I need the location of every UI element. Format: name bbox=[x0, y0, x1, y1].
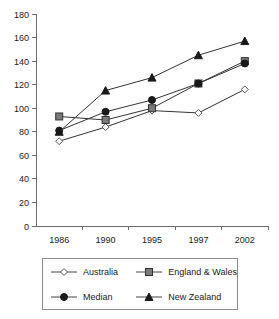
y-tick-label: 60 bbox=[19, 151, 29, 161]
data-point-marker bbox=[241, 86, 248, 93]
y-tick-label: 160 bbox=[14, 33, 29, 43]
legend-item-australia[interactable]: Australia bbox=[43, 266, 128, 278]
x-tick-label: 2002 bbox=[235, 235, 255, 245]
legend-marker-filled-triangle-icon bbox=[134, 291, 164, 303]
legend-item-label: Australia bbox=[83, 267, 118, 277]
x-tick-label: 1995 bbox=[142, 235, 162, 245]
chart-legend: AustraliaEngland & WalesMedianNew Zealan… bbox=[42, 258, 238, 310]
legend-item-england-wales[interactable]: England & Wales bbox=[128, 266, 237, 278]
legend-marker-square-icon bbox=[134, 266, 164, 278]
data-point-marker bbox=[241, 37, 249, 45]
data-point-marker bbox=[56, 138, 63, 145]
legend-marker-open-diamond-icon bbox=[49, 266, 79, 278]
series-layer bbox=[55, 37, 249, 145]
data-point-marker bbox=[56, 113, 63, 120]
legend-marker-filled-circle-icon bbox=[49, 291, 79, 303]
data-point-marker bbox=[102, 87, 110, 95]
data-point-marker bbox=[102, 117, 109, 124]
y-tick-label: 0 bbox=[24, 222, 29, 232]
data-point-marker bbox=[194, 51, 202, 59]
y-tick-label: 40 bbox=[19, 174, 29, 184]
y-tick-label: 100 bbox=[14, 104, 29, 114]
data-point-marker bbox=[61, 268, 68, 275]
data-point-marker bbox=[149, 105, 156, 112]
data-point-marker bbox=[146, 268, 153, 275]
data-point-marker bbox=[195, 80, 202, 87]
data-point-marker bbox=[61, 293, 68, 300]
data-point-marker bbox=[149, 96, 156, 103]
y-tick-label: 80 bbox=[19, 127, 29, 137]
x-tick-label: 1997 bbox=[188, 235, 208, 245]
data-point-marker bbox=[102, 124, 109, 131]
legend-item-label: Median bbox=[83, 292, 113, 302]
y-tick-label: 20 bbox=[19, 198, 29, 208]
y-tick-label: 140 bbox=[14, 57, 29, 67]
y-tick-label: 180 bbox=[14, 10, 29, 20]
y-tick-label: 120 bbox=[14, 80, 29, 90]
series-australia bbox=[56, 86, 249, 145]
data-point-marker bbox=[102, 108, 109, 115]
data-point-marker bbox=[241, 60, 248, 67]
x-tick-label: 1990 bbox=[96, 235, 116, 245]
x-tick-label: 1986 bbox=[49, 235, 69, 245]
data-point-marker bbox=[195, 109, 202, 116]
series-median bbox=[56, 60, 249, 134]
legend-item-label: New Zealand bbox=[168, 292, 221, 302]
x-axis: 19861990199519972002 bbox=[36, 226, 268, 245]
line-chart: 020406080100120140160180 198619901995199… bbox=[0, 0, 279, 319]
y-axis: 020406080100120140160180 bbox=[14, 10, 36, 232]
legend-item-median[interactable]: Median bbox=[43, 291, 128, 303]
plot-area: 020406080100120140160180 198619901995199… bbox=[0, 0, 279, 250]
data-point-marker bbox=[148, 74, 156, 82]
legend-item-new-zealand[interactable]: New Zealand bbox=[128, 291, 237, 303]
legend-item-label: England & Wales bbox=[168, 267, 237, 277]
